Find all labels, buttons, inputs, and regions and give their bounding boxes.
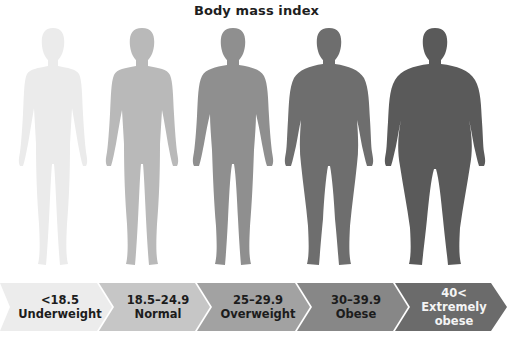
figure-obese	[279, 24, 379, 272]
category-text: Obese	[336, 307, 376, 321]
range-text: 18.5–24.9	[127, 293, 190, 307]
bmi-category-banner: <18.5 Underweight 18.5–24.9 Normal 25–29…	[0, 283, 513, 331]
label-underweight: <18.5 Underweight	[10, 283, 110, 331]
label-extremely-obese: 40< Extremely obese	[404, 283, 504, 331]
range-text: 40<	[441, 286, 467, 300]
label-obese: 30–39.9 Obese	[306, 283, 406, 331]
category-text: Underweight	[18, 307, 102, 321]
category-text: Extremely	[421, 300, 486, 314]
figure-normal	[97, 24, 187, 272]
figure-extremely-obese	[380, 24, 490, 272]
label-normal: 18.5–24.9 Normal	[110, 283, 206, 331]
diagram-title: Body mass index	[0, 3, 513, 18]
range-text: <18.5	[41, 293, 79, 307]
label-overweight: 25–29.9 Overweight	[208, 283, 308, 331]
category-text: Overweight	[220, 307, 295, 321]
figure-overweight	[186, 24, 281, 272]
range-text: 25–29.9	[233, 293, 283, 307]
body-figures	[0, 24, 513, 274]
figure-underweight	[8, 24, 98, 272]
range-text: 30–39.9	[331, 293, 381, 307]
category-text: Normal	[135, 307, 182, 321]
category-text-line2: obese	[435, 314, 474, 328]
